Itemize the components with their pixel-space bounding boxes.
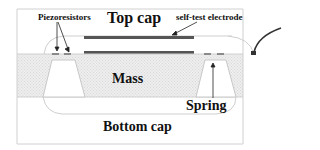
label-top-cap: Top cap (107, 10, 161, 26)
wire-bond (251, 28, 281, 55)
label-mass: Mass (112, 72, 143, 86)
label-piezoresistors: Piezoresistors (38, 13, 91, 22)
upper-electrode (84, 36, 194, 39)
self-test-electrodes (84, 36, 194, 54)
label-bottom-cap: Bottom cap (103, 120, 172, 134)
label-self-test-electrode: self-test electrode (176, 13, 243, 22)
label-spring: Spring (186, 99, 226, 113)
